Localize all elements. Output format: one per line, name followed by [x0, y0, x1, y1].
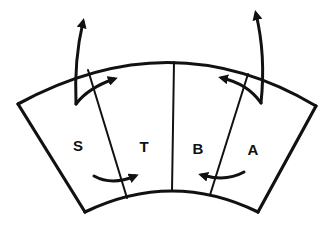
right-bottom-arrow [202, 172, 244, 178]
inner-arc [85, 191, 258, 212]
segment-label-t: T [139, 139, 148, 154]
left-bottom-arrow [94, 176, 135, 181]
segment-label-a: A [248, 142, 259, 157]
left-edge [18, 104, 85, 212]
right-edge [258, 106, 316, 212]
left-outward-arrow [76, 22, 83, 104]
right-hook-arrow [222, 78, 261, 103]
outer-arc [18, 62, 316, 106]
arc-segment-diagram [0, 0, 332, 232]
right-outward-arrow [256, 14, 263, 103]
center-divider [172, 62, 174, 191]
segment-label-b: B [193, 141, 204, 156]
segment-label-s: S [73, 138, 83, 153]
